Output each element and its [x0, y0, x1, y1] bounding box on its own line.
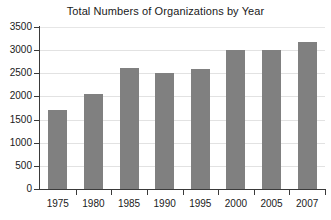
bar: [84, 94, 103, 189]
x-axis-tick: [218, 190, 219, 195]
bar: [298, 42, 317, 189]
bar: [120, 68, 139, 189]
gridline: [40, 27, 325, 28]
gridline: [40, 166, 325, 167]
y-axis-label-wrap: 1000: [0, 138, 32, 148]
x-axis-tick: [254, 190, 255, 195]
x-axis-label: 2000: [217, 198, 255, 209]
y-axis-label: 0: [0, 184, 32, 194]
bar: [155, 73, 174, 189]
x-axis-label: 1975: [39, 198, 77, 209]
gridline: [40, 143, 325, 144]
gridline: [40, 120, 325, 121]
y-axis-label-wrap: 3000: [0, 45, 32, 55]
y-axis-tick: [34, 143, 39, 144]
x-axis-label: 1990: [146, 198, 184, 209]
y-axis-label: 2000: [0, 91, 32, 101]
chart-title: Total Numbers of Organizations by Year: [0, 5, 331, 18]
y-axis-label-wrap: 1500: [0, 115, 32, 125]
x-axis-tick: [289, 190, 290, 195]
bar-chart: Total Numbers of Organizations by Year 0…: [0, 0, 331, 220]
x-axis-tick: [111, 190, 112, 195]
y-axis-label-wrap: 0: [0, 184, 32, 194]
gridline: [40, 96, 325, 97]
y-axis-label: 2500: [0, 68, 32, 78]
y-axis-label-wrap: 3500: [0, 22, 32, 32]
y-axis-label-wrap: 500: [0, 161, 32, 171]
y-axis-tick: [34, 189, 39, 190]
y-axis-label: 1000: [0, 138, 32, 148]
y-axis-label: 3500: [0, 22, 32, 32]
x-axis-tick: [325, 190, 326, 195]
x-axis-tick: [76, 190, 77, 195]
y-axis-label: 3000: [0, 45, 32, 55]
plot-area: [40, 27, 325, 189]
gridline: [40, 50, 325, 51]
y-axis-tick: [34, 27, 39, 28]
x-axis-label: 1980: [74, 198, 112, 209]
y-axis-label-wrap: 2000: [0, 91, 32, 101]
y-axis-tick: [34, 120, 39, 121]
bar: [226, 50, 245, 189]
y-axis-tick: [34, 73, 39, 74]
bar: [262, 50, 281, 189]
y-axis-tick: [34, 50, 39, 51]
x-axis-label: 2007: [288, 198, 326, 209]
x-axis-tick: [147, 190, 148, 195]
y-axis-tick: [34, 96, 39, 97]
x-axis-tick: [183, 190, 184, 195]
bar: [48, 110, 67, 189]
x-axis-label: 2005: [253, 198, 291, 209]
y-axis-label-wrap: 2500: [0, 68, 32, 78]
x-axis-label: 1985: [110, 198, 148, 209]
y-axis-label: 500: [0, 161, 32, 171]
x-axis-label: 1995: [181, 198, 219, 209]
y-axis-label: 1500: [0, 115, 32, 125]
gridline: [40, 73, 325, 74]
bar: [191, 69, 210, 189]
y-axis-tick: [34, 166, 39, 167]
